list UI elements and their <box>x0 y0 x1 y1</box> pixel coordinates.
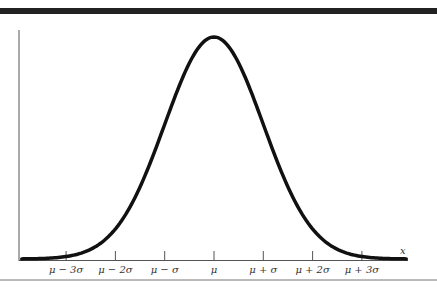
x-axis-label: x <box>400 245 406 256</box>
top-rule <box>0 8 437 14</box>
x-tick-label: μ <box>211 264 218 275</box>
x-tick-label: μ + 2σ <box>295 264 331 275</box>
bell-curve <box>22 37 407 259</box>
x-tick-label: μ − 2σ <box>98 264 134 275</box>
x-tick-label: μ − σ <box>151 264 180 275</box>
x-axis-ticks <box>66 251 362 260</box>
x-tick-labels: μ − 3σμ − 2σμ − σμμ + σμ + 2σμ + 3σ <box>49 264 380 275</box>
normal-distribution-chart: x μ − 3σμ − 2σμ − σμμ + σμ + 2σμ + 3σ <box>0 0 437 289</box>
x-tick-label: μ + 3σ <box>345 264 381 275</box>
x-tick-label: μ + σ <box>249 264 278 275</box>
x-tick-label: μ − 3σ <box>49 264 85 275</box>
